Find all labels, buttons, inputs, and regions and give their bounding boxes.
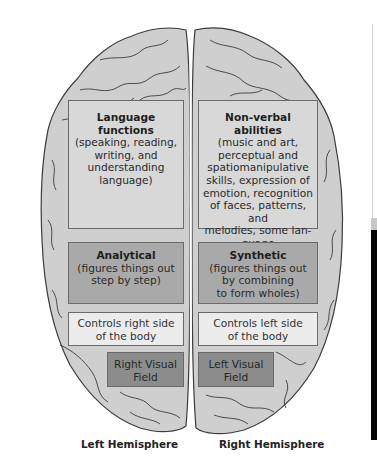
edge-divider: [372, 24, 373, 220]
analytical-title: Analytical: [96, 249, 155, 262]
body-line: Controls right side: [77, 317, 174, 330]
body-line: Field: [133, 371, 157, 384]
left-visual-field-box: Left Visual Field: [198, 352, 274, 387]
body-line: skills, expression of: [206, 174, 309, 187]
body-line: to form wholes): [216, 287, 299, 300]
controls-right-side-box: Controls right side of the body: [68, 312, 184, 346]
body-line: spatiomanipulative: [207, 161, 309, 174]
left-hemisphere-label: Left Hemisphere: [81, 438, 178, 450]
language-functions-box: Language functions (speaking, reading, w…: [68, 100, 184, 229]
body-line: writing, and: [94, 149, 157, 162]
title-line: functions: [97, 124, 155, 137]
edge-bar: [371, 230, 377, 440]
body-line: step by step): [91, 274, 161, 287]
right-visual-field-box: Right Visual Field: [107, 352, 184, 387]
body-line: of the body: [96, 330, 157, 343]
brain-diagram: Language functions (speaking, reading, w…: [0, 0, 377, 456]
body-line: by combining: [222, 274, 294, 287]
body-line: melodies, some lan-: [205, 224, 312, 237]
synthetic-title: Synthetic: [230, 249, 287, 262]
body-line: of faces, patterns, and: [199, 199, 317, 224]
title-line: Language: [97, 111, 155, 124]
body-line: Field: [224, 371, 248, 384]
longitudinal-fissure: [191, 30, 192, 430]
body-line: (figures things out: [77, 262, 174, 275]
title-line: Non-verbal: [225, 111, 291, 124]
body-line: language): [99, 174, 152, 187]
body-line: perceptual and: [218, 149, 298, 162]
language-functions-title: Language functions: [97, 111, 155, 136]
body-line: Left Visual: [209, 358, 264, 371]
body-line: emotion, recognition: [203, 187, 313, 200]
body-line: (speaking, reading,: [75, 136, 177, 149]
edge-block: [371, 218, 377, 230]
body-line: Right Visual: [114, 358, 177, 371]
brain-illustration: [0, 0, 377, 456]
body-line: Controls left side: [213, 317, 302, 330]
body-line: understanding: [87, 161, 164, 174]
controls-left-side-box: Controls left side of the body: [198, 312, 318, 346]
analytical-box: Analytical (figures things out step by s…: [68, 242, 184, 304]
body-line: (figures things out: [209, 262, 306, 275]
synthetic-box: Synthetic (figures things out by combini…: [198, 242, 318, 304]
right-hemisphere-label: Right Hemisphere: [219, 438, 324, 450]
body-line: (music and art,: [218, 136, 299, 149]
non-verbal-abilities-title: Non-verbal abilities: [225, 111, 291, 136]
title-line: abilities: [225, 124, 291, 137]
non-verbal-abilities-box: Non-verbal abilities (music and art, per…: [198, 100, 318, 229]
body-line: of the body: [228, 330, 289, 343]
